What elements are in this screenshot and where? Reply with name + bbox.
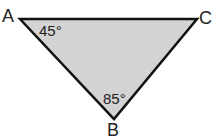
- vertex-b-label: B: [107, 120, 119, 138]
- angle-a-label: 45°: [39, 22, 62, 39]
- triangle-canvas: A C B 45° 85°: [0, 0, 219, 138]
- triangle-diagram: A C B 45° 85°: [0, 0, 219, 138]
- vertex-c-label: C: [199, 8, 212, 28]
- vertex-a-label: A: [2, 6, 14, 26]
- angle-b-label: 85°: [103, 90, 126, 107]
